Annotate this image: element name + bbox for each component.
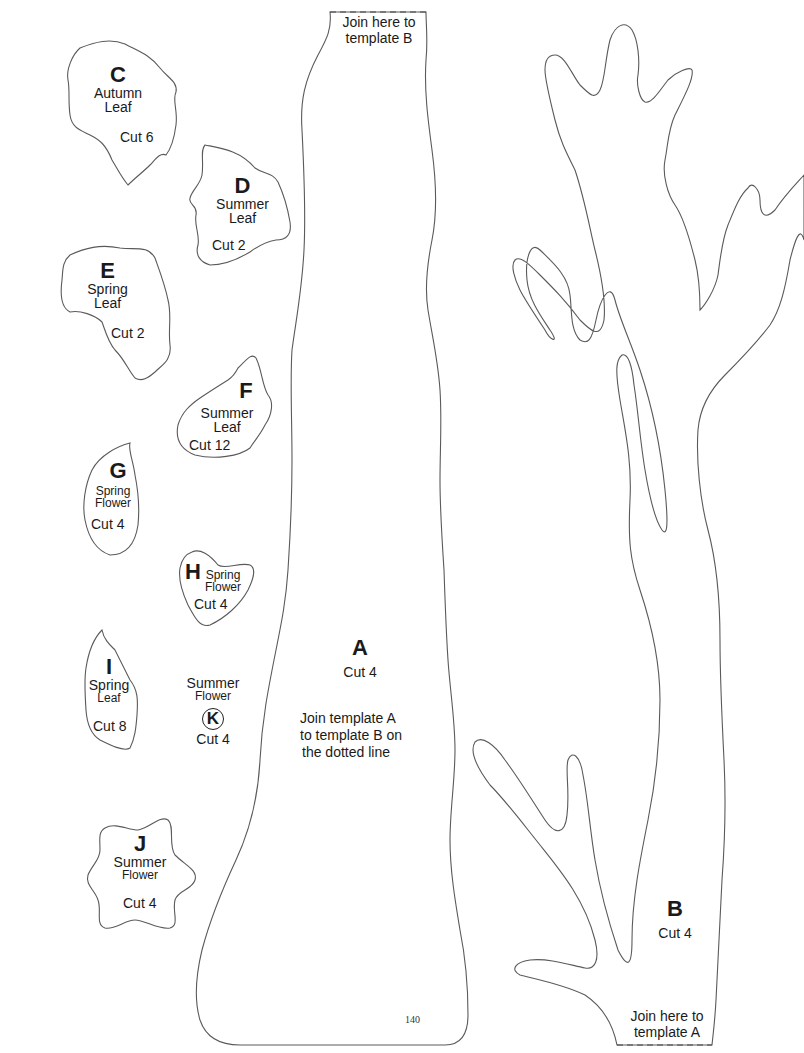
- piece-name-2: Flower: [180, 690, 246, 702]
- cut-count: Cut 4: [180, 732, 246, 746]
- template-letter: H: [183, 561, 203, 583]
- template-letter: E: [80, 260, 135, 282]
- circled-letter-k-icon: K: [202, 708, 224, 730]
- piece-name-1: Summer: [195, 406, 259, 420]
- piece-name-1: Summer: [210, 197, 275, 211]
- instruction-line-2: to template B on: [300, 727, 420, 744]
- template-letter: A: [320, 637, 400, 659]
- template-b-label: B Cut 4: [635, 898, 715, 940]
- piece-name-2: Leaf: [80, 296, 135, 310]
- piece-name-2: Flower: [88, 497, 138, 509]
- template-letter: D: [210, 175, 275, 197]
- instruction-line-3: the dotted line: [300, 744, 420, 761]
- template-letter: B: [635, 898, 715, 920]
- template-b-join-note: Join here to template A: [622, 1008, 712, 1040]
- template-a-instructions: Join template A to template B on the dot…: [300, 710, 420, 760]
- cut-count: Cut 4: [123, 896, 156, 910]
- template-letter: I: [84, 656, 134, 678]
- cut-count: Cut 8: [93, 719, 126, 733]
- piece-name-2: Flower: [105, 869, 175, 881]
- cut-count: Cut 4: [320, 665, 400, 679]
- piece-name-1: Spring: [84, 678, 134, 692]
- flower-j-label: J Summer Flower: [105, 833, 175, 881]
- instruction-line-1: Join template A: [300, 710, 420, 727]
- cut-count: Cut 4: [194, 597, 227, 611]
- leaf-i-label: I Spring Leaf: [84, 656, 134, 704]
- join-line-2: template A: [622, 1024, 712, 1040]
- join-line-1: Join here to: [334, 14, 424, 30]
- flower-g-label: G Spring Flower: [88, 460, 138, 509]
- piece-name-2: Leaf: [84, 692, 134, 704]
- cut-count: Cut 12: [189, 438, 230, 452]
- piece-name-1: Summer: [180, 676, 246, 690]
- leaf-c-label: C Autumn Leaf: [88, 64, 148, 114]
- template-a-join-note: Join here to template B: [334, 14, 424, 46]
- cut-count: Cut 2: [111, 326, 144, 340]
- template-letter: C: [88, 64, 148, 86]
- flower-k-label: Summer Flower K Cut 4: [180, 676, 246, 746]
- piece-name-2: Flower: [201, 581, 245, 593]
- template-b-outline: [473, 25, 804, 1045]
- join-line-1: Join here to: [622, 1008, 712, 1024]
- leaf-f-label: F: [236, 380, 256, 402]
- cut-count: Cut 4: [91, 517, 124, 531]
- piece-name-2: Leaf: [88, 100, 148, 114]
- cut-count: Cut 2: [212, 238, 245, 252]
- template-a-label: A Cut 4: [320, 637, 400, 679]
- template-letter: F: [236, 380, 256, 402]
- flower-h-name: Spring Flower: [201, 569, 245, 593]
- page-number: 140: [405, 1014, 420, 1025]
- flower-h-label: H: [183, 561, 203, 583]
- leaf-d-label: D Summer Leaf: [210, 175, 275, 225]
- leaf-f-name: Summer Leaf: [195, 406, 259, 434]
- k-circle-wrap: K: [180, 708, 246, 730]
- leaf-e-label: E Spring Leaf: [80, 260, 135, 310]
- cut-count: Cut 6: [120, 130, 153, 144]
- piece-name-2: Leaf: [195, 420, 259, 434]
- cut-count: Cut 4: [635, 926, 715, 940]
- template-letter: G: [88, 460, 138, 482]
- piece-name-2: Leaf: [210, 211, 275, 225]
- piece-name-1: Autumn: [88, 86, 148, 100]
- template-letter: J: [105, 833, 175, 855]
- join-line-2: template B: [334, 30, 424, 46]
- piece-name-1: Spring: [80, 282, 135, 296]
- piece-name-1: Summer: [105, 855, 175, 869]
